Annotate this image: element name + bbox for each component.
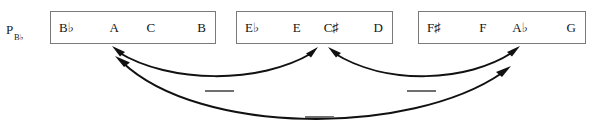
hexachord-box-1: B♭ A C B <box>50 11 216 44</box>
pitch-cell: A♭ <box>502 21 539 34</box>
arc-box2-box3-arrowhead-right <box>507 46 520 57</box>
arc-box1-box3-arrowhead-left <box>115 56 130 67</box>
arc-box1-box3-curve <box>122 62 502 119</box>
row-label: PB♭ <box>6 22 24 40</box>
pitch-cell: F♯ <box>419 21 464 34</box>
arc-box1-box2-curve <box>118 52 312 76</box>
dash-mark-center <box>305 116 334 118</box>
arc-box1-box3-arrowhead-right <box>496 66 511 77</box>
pitch-cell: E♭ <box>237 21 280 34</box>
hexachord-box-3-cells: F♯ F A♭ G <box>419 12 585 43</box>
row-label-subscript: B♭ <box>14 32 24 42</box>
pitch-cell: F <box>464 21 501 34</box>
dash-mark-right <box>407 90 436 92</box>
pitch-cell: E <box>280 21 315 34</box>
pitch-cell: B♭ <box>51 21 96 34</box>
arc-box1-box2-arrowhead-left <box>112 46 125 57</box>
hexachord-box-2: E♭ E C♯ D <box>236 11 393 44</box>
hexachord-box-2-cells: E♭ E C♯ D <box>237 12 392 43</box>
pitch-cell: C♯ <box>314 21 349 34</box>
arc-box1-box2-arrowhead-right <box>306 47 318 58</box>
pitch-cell: G <box>539 21 585 34</box>
dash-mark-left <box>205 90 234 92</box>
hexachord-box-1-cells: B♭ A C B <box>51 12 215 43</box>
row-label-base: P <box>6 22 13 37</box>
arc-box2-box3-curve <box>334 52 513 76</box>
pitch-cell: B <box>169 21 215 34</box>
pitch-cell: D <box>349 21 393 34</box>
pitch-cell: C <box>133 21 170 34</box>
hexachord-box-3: F♯ F A♭ G <box>418 11 586 44</box>
pitch-cell: A <box>96 21 133 34</box>
pitch-class-transformation-diagram: PB♭ B♭ A C B E♭ E C♯ D F♯ F A♭ G <box>0 0 596 140</box>
arc-box2-box3-arrowhead-left <box>328 47 341 58</box>
